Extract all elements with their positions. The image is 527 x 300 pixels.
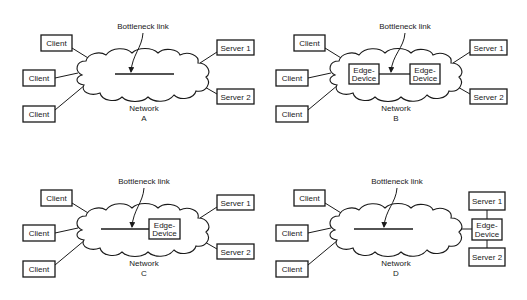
connector-line [55, 228, 78, 233]
connector-line [308, 73, 331, 78]
connector-line [308, 228, 331, 233]
panel-letter: D [393, 269, 399, 278]
client-box: Client [276, 70, 308, 86]
svg-text:Client: Client [29, 110, 50, 119]
connector-line [453, 52, 470, 63]
connector-line [55, 85, 85, 110]
svg-text:Client: Client [299, 194, 320, 203]
server-1-box: Server 1 [470, 40, 507, 55]
client-box: Client [23, 225, 55, 241]
svg-text:Server 2: Server 2 [220, 248, 251, 257]
network-label: Network [381, 259, 411, 268]
network-label: Network [129, 104, 159, 113]
svg-text:Server 2: Server 2 [472, 253, 503, 262]
svg-text:Client: Client [29, 229, 50, 238]
server-2-box: Server 2 [217, 89, 254, 104]
svg-text:Edge-: Edge- [476, 221, 498, 230]
edge-device-box: Edge- Device [410, 64, 440, 84]
client-box: Client [276, 261, 308, 277]
connector-line [308, 85, 338, 110]
svg-text:Device: Device [475, 230, 500, 239]
panel-b: Bottleneck link Edge- Device Edge- Devic… [276, 22, 507, 123]
connector-line [55, 240, 85, 265]
svg-text:Server 1: Server 1 [220, 44, 251, 53]
client-box: Client [23, 261, 55, 277]
panel-letter: A [141, 114, 147, 123]
server-2-box: Server 2 [217, 244, 254, 259]
svg-text:Client: Client [29, 265, 50, 274]
client-box: Client [276, 106, 308, 122]
svg-text:Server 2: Server 2 [473, 93, 504, 102]
edge-device-box: Edge- Device [149, 219, 180, 239]
svg-text:Client: Client [29, 74, 50, 83]
svg-text:Client: Client [282, 74, 303, 83]
server-1-box: Server 1 [217, 40, 254, 55]
edge-device-box: Edge- Device [349, 64, 379, 84]
client-box: Client [294, 190, 325, 206]
client-box: Client [41, 190, 72, 206]
network-cloud [330, 204, 462, 257]
bottleneck-label: Bottleneck link [371, 177, 424, 186]
network-cloud [77, 204, 209, 257]
bottleneck-label: Bottleneck link [379, 22, 432, 31]
network-diagram: Bottleneck link Client Client Client Ser… [0, 0, 527, 300]
client-box: Client [23, 70, 55, 86]
svg-text:Device: Device [413, 74, 438, 83]
svg-text:Client: Client [282, 110, 303, 119]
svg-text:Server 2: Server 2 [220, 93, 251, 102]
connector-line [308, 240, 338, 265]
svg-text:Client: Client [46, 194, 67, 203]
network-label: Network [381, 104, 411, 113]
svg-text:Client: Client [282, 265, 303, 274]
svg-text:Client: Client [299, 39, 320, 48]
server-2-box: Server 2 [470, 89, 507, 104]
client-box: Client [276, 225, 308, 241]
client-box: Client [23, 106, 55, 122]
svg-text:Server 1: Server 1 [472, 197, 503, 206]
svg-text:Device: Device [152, 229, 177, 238]
svg-text:Server 1: Server 1 [220, 199, 251, 208]
panel-a: Bottleneck link Client Client Client Ser… [23, 22, 254, 123]
connector-line [200, 207, 217, 218]
bottleneck-label: Bottleneck link [118, 177, 171, 186]
panel-letter: B [393, 114, 398, 123]
client-box: Client [41, 35, 72, 51]
svg-text:Device: Device [352, 74, 377, 83]
server-1-box: Server 1 [217, 195, 254, 210]
connector-line [55, 73, 78, 78]
svg-text:Server 1: Server 1 [473, 44, 504, 53]
bottleneck-label: Bottleneck link [117, 22, 170, 31]
network-cloud [77, 49, 209, 102]
svg-text:Client: Client [46, 39, 67, 48]
svg-text:Client: Client [282, 229, 303, 238]
edge-device-box: Edge- Device [472, 219, 502, 240]
panel-letter: C [141, 269, 147, 278]
panel-c: Bottleneck link Edge- Device Client Clie… [23, 177, 254, 278]
panel-d: Bottleneck link Client Client Client Ser… [276, 177, 505, 278]
server-1-box: Server 1 [469, 192, 505, 210]
network-label: Network [129, 259, 159, 268]
connector-line [200, 52, 217, 63]
server-2-box: Server 2 [469, 248, 505, 266]
client-box: Client [294, 35, 325, 51]
